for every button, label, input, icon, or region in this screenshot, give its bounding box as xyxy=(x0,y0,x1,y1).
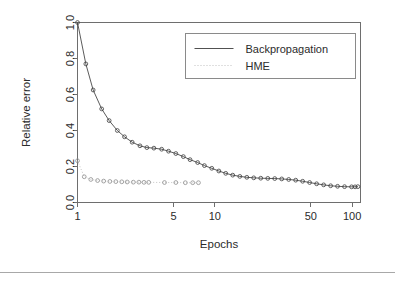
data-point-marker xyxy=(197,181,201,185)
page-divider xyxy=(0,272,395,273)
y-tick-label: 0.4 xyxy=(64,123,76,138)
legend: BackpropagationHME xyxy=(186,34,356,79)
legend-label: HME xyxy=(246,60,270,72)
x-tick-label: 50 xyxy=(305,210,317,222)
legend-label: Backpropagation xyxy=(246,43,329,55)
y-tick-label: 0.6 xyxy=(64,87,76,102)
x-tick-label: 10 xyxy=(209,210,221,222)
series-hme xyxy=(76,159,201,185)
x-tick-label: 5 xyxy=(170,210,176,222)
data-point-marker xyxy=(131,180,135,184)
y-axis-title: Relative error xyxy=(20,78,32,147)
chart-figure: 0.00.20.40.60.81.0Relative error15105010… xyxy=(0,0,395,286)
legend-box xyxy=(186,34,356,79)
x-axis: 151050100Epochs xyxy=(74,203,361,250)
x-tick-label: 100 xyxy=(343,210,361,222)
y-tick-label: 1.0 xyxy=(64,15,76,30)
x-axis-title: Epochs xyxy=(200,238,239,250)
y-axis: 0.00.20.40.60.81.0Relative error xyxy=(20,15,78,210)
y-tick-label: 0.2 xyxy=(64,159,76,174)
x-tick-label: 1 xyxy=(74,210,80,222)
data-point-marker xyxy=(142,180,146,184)
y-tick-label: 0.8 xyxy=(64,51,76,66)
data-point-marker xyxy=(82,175,86,179)
y-tick-label: 0.0 xyxy=(64,195,76,210)
relative-error-chart: 0.00.20.40.60.81.0Relative error15105010… xyxy=(0,0,395,286)
